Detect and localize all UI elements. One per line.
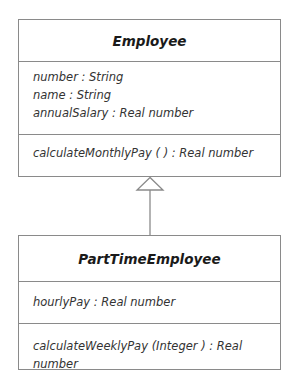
class-part-time-employee: PartTimeEmployee hourlyPay : Real number…: [18, 235, 281, 370]
attribute: hourlyPay : Real number: [33, 293, 280, 311]
class-name: PartTimeEmployee: [19, 236, 280, 282]
operations-compartment: calculateWeeklyPay (Integer ) : Real num…: [19, 324, 280, 368]
attributes-compartment: hourlyPay : Real number: [19, 282, 280, 324]
operation: calculateWeeklyPay (Integer ) : Real num…: [33, 337, 280, 373]
